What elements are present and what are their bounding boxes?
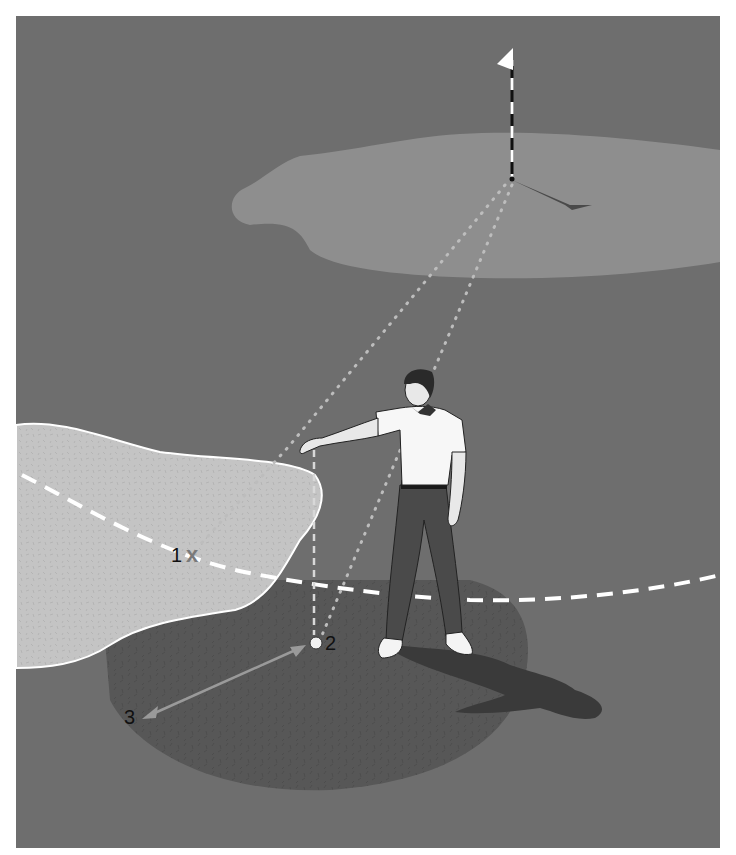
golf-diagram: x 1 2 3 — [0, 0, 736, 855]
golf-ball — [310, 637, 322, 649]
label-point-1: 1 — [171, 544, 182, 566]
label-point-3: 3 — [124, 706, 135, 728]
point-1-marker: x — [186, 542, 199, 567]
label-point-2: 2 — [325, 632, 336, 654]
